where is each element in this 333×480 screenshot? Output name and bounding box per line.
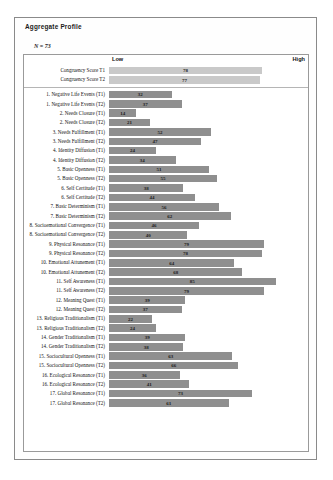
- bar-row-label: 6. Self Certitude (T1): [61, 185, 105, 191]
- bar-row: 14. Gender Traditionalism (T1)39: [24, 333, 308, 342]
- bar-row-label: 2. Needs Closure (T1): [60, 110, 105, 116]
- bar-value-label: 37: [143, 101, 148, 109]
- bar-value-label: 24: [130, 147, 135, 155]
- bar-value-label: 52: [157, 129, 162, 137]
- bar-row-label: 4. Identity Diffusion (T2): [53, 157, 105, 163]
- bar-track: 21: [109, 119, 305, 127]
- bar-row: 2. Needs Closure (T1)14: [24, 109, 308, 118]
- bar-row-label: 14. Gender Traditionalism (T1): [41, 334, 105, 340]
- bar-row-label: 11. Self Awareness (T1): [56, 278, 105, 284]
- bar-value-label: 79: [184, 288, 189, 296]
- bar-row: 8. Socioemotional Convergence (T2)40: [24, 230, 308, 239]
- bar-track: 55: [109, 175, 305, 183]
- bar-track: 79: [109, 287, 305, 295]
- bar-row-label: 16. Ecological Resonance (T2): [42, 381, 105, 387]
- bar-value-label: 46: [152, 222, 157, 230]
- bar-row-label: 10. Emotional Attunement (T2): [41, 269, 105, 275]
- bar-row: 11. Self Awareness (T2)79: [24, 286, 308, 295]
- bar-row-label: 12. Meaning Quest (T1): [56, 297, 105, 303]
- bar-track: 38: [109, 184, 305, 192]
- bar-row-label: 1. Negative Life Events (T2): [46, 101, 105, 107]
- bar-row-label: 13. Religious Traditionalism (T1): [37, 315, 105, 321]
- bar-row-label: 15. Sociocultural Openness (T1): [39, 353, 105, 359]
- bar-row: 16. Ecological Resonance (T1)36: [24, 371, 308, 380]
- bar-track: 46: [109, 222, 305, 230]
- bar-rows-container: Congruency Score T178Congruency Score T2…: [24, 66, 308, 408]
- bar-value-label: 73: [178, 390, 183, 398]
- bar-row: 7. Basic Determinism (T1)56: [24, 202, 308, 211]
- bar-row: 10. Emotional Attunement (T2)68: [24, 268, 308, 277]
- bar-row: 3. Needs Fulfillment (T1)52: [24, 128, 308, 137]
- bar-row-label: 3. Needs Fulfillment (T1): [53, 129, 105, 135]
- bar-row: 5. Basic Openness (T2)55: [24, 174, 308, 183]
- bar-value-label: 32: [138, 91, 143, 99]
- bar-row-label: 2. Needs Closure (T2): [60, 119, 105, 125]
- bar-track: 37: [109, 306, 305, 314]
- bar-value-label: 62: [167, 213, 172, 221]
- bar-track: 68: [109, 268, 305, 276]
- bar-row: 17. Global Resonance (T1)73: [24, 389, 308, 398]
- group-divider: [24, 87, 308, 88]
- bar-track: 14: [109, 109, 305, 117]
- bar-row-label: 14. Gender Traditionalism (T2): [41, 343, 105, 349]
- bar-row: 7. Basic Determinism (T2)62: [24, 212, 308, 221]
- bar-value-label: 37: [143, 306, 148, 314]
- bar-row: 9. Physical Resonance (T2)78: [24, 249, 308, 258]
- bar-value-label: 38: [144, 185, 149, 193]
- bar-row-label: 7. Basic Determinism (T1): [50, 203, 105, 209]
- bar-value-label: 63: [168, 353, 173, 361]
- sample-size-label: N = 73: [34, 43, 51, 49]
- bar-row: 3. Needs Fulfillment (T2)47: [24, 137, 308, 146]
- bar-track: 44: [109, 194, 305, 202]
- bar-row-label: 10. Emotional Attunement (T1): [41, 259, 105, 265]
- bar-row-label: Congruency Score T2: [60, 76, 105, 82]
- bar-row: 12. Meaning Quest (T2)37: [24, 305, 308, 314]
- bar-value-label: 51: [156, 166, 161, 174]
- bar-track: 79: [109, 240, 305, 248]
- bar-track: 34: [109, 156, 305, 164]
- bar-row: 16. Ecological Resonance (T2)41: [24, 380, 308, 389]
- bar-row: 5. Basic Openness (T1)51: [24, 165, 308, 174]
- bar-track: 47: [109, 138, 305, 146]
- bar-track: 22: [109, 315, 305, 323]
- bar-row-label: 8. Socioemotional Convergence (T1): [30, 222, 105, 228]
- bar-track: 51: [109, 166, 305, 174]
- bar-track: 56: [109, 203, 305, 211]
- bar-track: 78: [109, 250, 305, 258]
- bar-track: 36: [109, 371, 305, 379]
- bar-row-label: Congruency Score T1: [60, 67, 105, 73]
- bar-track: 63: [109, 352, 305, 360]
- bar-row-label: 7. Basic Determinism (T2): [50, 213, 105, 219]
- bar-row: 1. Negative Life Events (T2)37: [24, 100, 308, 109]
- page-title: Aggregate Profile: [25, 23, 82, 30]
- bar-track: 24: [109, 147, 305, 155]
- bar-value-label: 78: [183, 67, 188, 75]
- bar-row-label: 16. Ecological Resonance (T1): [42, 372, 105, 378]
- bar-row-label: 9. Physical Resonance (T1): [49, 241, 105, 247]
- bar-value-label: 40: [146, 232, 151, 240]
- bar-value-label: 39: [145, 334, 150, 342]
- bar-track: 39: [109, 296, 305, 304]
- axis-high-label: High: [293, 56, 305, 62]
- bar-value-label: 47: [153, 138, 158, 146]
- bar-row-label: 13. Religious Traditionalism (T2): [37, 325, 105, 331]
- bar-row: 13. Religious Traditionalism (T1)22: [24, 314, 308, 323]
- bar-track: 62: [109, 212, 305, 220]
- bar-row: 2. Needs Closure (T2)21: [24, 118, 308, 127]
- bar-row-label: 3. Needs Fulfillment (T2): [53, 138, 105, 144]
- bar-row-label: 8. Socioemotional Convergence (T2): [30, 231, 105, 237]
- bar-value-label: 38: [144, 344, 149, 352]
- bar-track: 78: [109, 67, 305, 75]
- bar-value-label: 41: [147, 381, 152, 389]
- bar-row: 15. Sociocultural Openness (T1)63: [24, 352, 308, 361]
- bar-row: Congruency Score T178: [24, 66, 308, 75]
- bar-row-label: 17. Global Resonance (T1): [50, 390, 105, 396]
- bar-value-label: 77: [182, 77, 187, 85]
- bar-value-label: 64: [169, 260, 174, 268]
- bar-row: Congruency Score T277: [24, 75, 308, 84]
- bar-track: 64: [109, 259, 305, 267]
- bar-row-label: 11. Self Awareness (T2): [56, 287, 105, 293]
- bar-row: 17. Global Resonance (T2)61: [24, 399, 308, 408]
- bar-row: 10. Emotional Attunement (T1)64: [24, 258, 308, 267]
- bar-row: 4. Identity Diffusion (T2)34: [24, 156, 308, 165]
